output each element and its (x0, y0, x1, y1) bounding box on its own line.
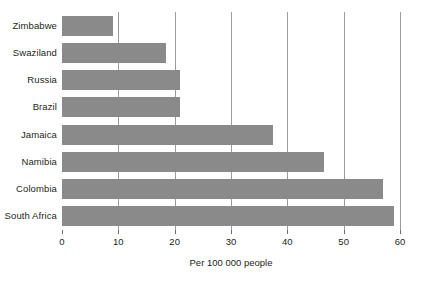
tick-label: 20 (169, 236, 180, 248)
axis-tick (287, 230, 288, 234)
axis-tick (344, 230, 345, 234)
tick-label: 10 (113, 236, 124, 248)
gridline (400, 12, 401, 230)
x-axis-title: Per 100 000 people (62, 257, 400, 269)
axis-tick (400, 230, 401, 234)
bar-chart: ZimbabweSwazilandRussiaBrazilJamaicaNami… (0, 0, 423, 281)
tick-label: 50 (338, 236, 349, 248)
category-label: Zimbabwe (0, 16, 57, 36)
category-label: Brazil (0, 97, 57, 117)
axis-tick (175, 230, 176, 234)
bar (62, 152, 324, 172)
bar-row (62, 97, 400, 117)
axis-tick (231, 230, 232, 234)
category-label: Swaziland (0, 43, 57, 63)
tick-label: 30 (226, 236, 237, 248)
bar (62, 43, 166, 63)
bar (62, 16, 113, 36)
bar (62, 179, 383, 199)
category-label: South Africa (0, 206, 57, 226)
bar-row (62, 152, 400, 172)
category-label: Colombia (0, 179, 57, 199)
category-axis-labels: ZimbabweSwazilandRussiaBrazilJamaicaNami… (0, 12, 57, 230)
tick-label: 60 (395, 236, 406, 248)
tick-label: 0 (59, 236, 64, 248)
value-axis-tick-labels: 0102030405060 (0, 236, 423, 250)
plot-area (62, 12, 400, 230)
bar (62, 97, 180, 117)
bar-row (62, 125, 400, 145)
bar-row (62, 179, 400, 199)
category-label: Russia (0, 70, 57, 90)
bar (62, 206, 394, 226)
bar-row (62, 70, 400, 90)
bar (62, 70, 180, 90)
bar-row (62, 206, 400, 226)
axis-tick (62, 230, 63, 234)
bar (62, 125, 273, 145)
category-label: Namibia (0, 152, 57, 172)
category-label: Jamaica (0, 125, 57, 145)
bar-row (62, 43, 400, 63)
tick-label: 40 (282, 236, 293, 248)
axis-tick (118, 230, 119, 234)
bar-row (62, 16, 400, 36)
